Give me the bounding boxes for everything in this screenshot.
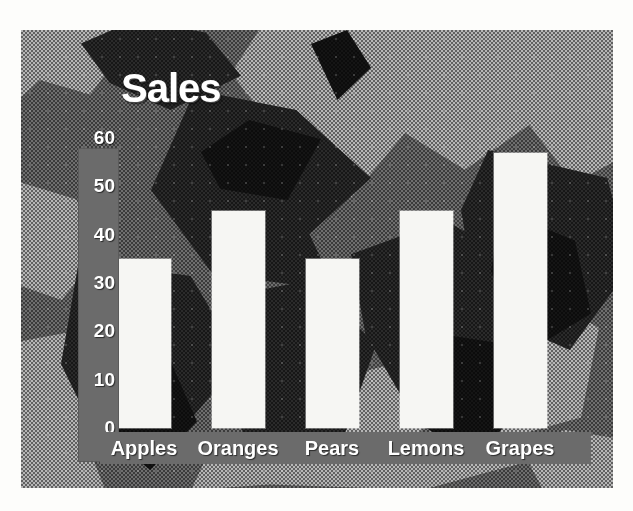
y-axis-tick-label: 40 [81, 224, 115, 246]
y-axis-tick-label: 20 [81, 320, 115, 342]
x-axis: ApplesOrangesPearsLemonsGrapes [100, 432, 591, 464]
x-axis-tick-label: Lemons [388, 437, 465, 460]
bar [400, 211, 453, 429]
bar [212, 211, 265, 429]
y-axis-tick-label: 10 [81, 369, 115, 391]
x-axis-tick-label: Apples [111, 437, 178, 460]
bar [306, 259, 359, 428]
chart-title: Sales [121, 66, 221, 111]
bar [494, 153, 547, 429]
bar [118, 259, 171, 428]
x-axis-tick-label: Oranges [197, 437, 278, 460]
y-axis-tick-label: 30 [81, 272, 115, 294]
x-axis-tick-label: Pears [305, 437, 360, 460]
x-axis-tick-label: Grapes [486, 437, 555, 460]
y-axis-tick-label: 60 [81, 127, 115, 149]
chart-screenshot: 6050403020100 ApplesOrangesPearsLemonsGr… [0, 0, 633, 511]
y-axis-tick-label: 50 [81, 175, 115, 197]
y-axis: 6050403020100 [78, 148, 119, 462]
chart-plot-area: 6050403020100 ApplesOrangesPearsLemonsGr… [21, 30, 613, 488]
